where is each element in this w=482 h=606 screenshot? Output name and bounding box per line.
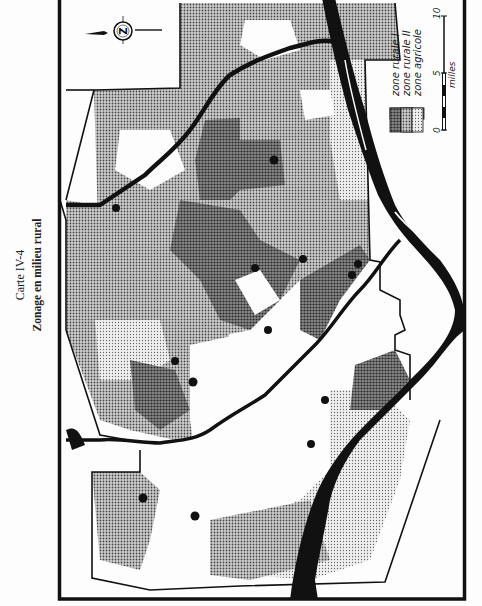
- svg-text:Z: Z: [118, 27, 129, 34]
- map-page: Carte IV-4 Zonage en milieu rural: [0, 0, 482, 606]
- scale-bar: 0 5 10 milles: [432, 7, 457, 133]
- scale-tick-0: 0: [432, 127, 442, 133]
- legend-swatch-agricole: [412, 108, 423, 132]
- scale-unit: milles: [447, 61, 457, 88]
- legend-swatch-rurale-2: [401, 108, 412, 132]
- map-canvas: Z zone rurale I zone rurale II zone agri…: [0, 0, 482, 606]
- scale-tick-5: 5: [432, 70, 442, 76]
- legend-label-agricole: zone agricole: [412, 29, 423, 97]
- legend-swatch-rurale-1-a: [390, 108, 401, 132]
- legend-label-rurale-2: zone rurale II: [401, 30, 412, 97]
- legend: zone rurale I zone rurale II zone agrico…: [390, 29, 424, 132]
- legend-label-rurale-1: zone rurale I: [390, 33, 401, 97]
- compass-rose-icon: Z: [85, 16, 162, 44]
- scale-tick-10: 10: [432, 7, 442, 19]
